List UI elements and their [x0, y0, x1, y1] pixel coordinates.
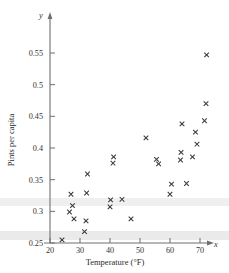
y-tick-label: 0.25 — [29, 239, 43, 248]
data-point-marker — [156, 162, 161, 167]
data-point-marker — [84, 191, 89, 196]
background-bands — [0, 198, 229, 240]
x-tick-label: 20 — [46, 246, 54, 255]
data-point-marker — [129, 217, 134, 222]
data-point-marker — [111, 155, 116, 160]
data-point-marker — [67, 210, 72, 215]
axes — [44, 12, 214, 245]
axis-ticks: 2030405060700.250.30.350.40.450.50.55 — [29, 49, 204, 255]
data-point-marker — [180, 122, 185, 127]
data-point-marker — [193, 130, 198, 135]
data-point-marker — [195, 142, 200, 147]
data-point-marker — [168, 192, 173, 197]
data-point-marker — [111, 161, 116, 166]
x-tick-label: 60 — [166, 246, 174, 255]
y-tick-label: 0.5 — [33, 81, 43, 90]
x-tick-label: 40 — [106, 246, 114, 255]
data-point-marker — [169, 182, 174, 187]
y-tick-label: 0.45 — [29, 112, 43, 121]
chart-canvas: 2030405060700.250.30.350.40.450.50.55 Te… — [0, 0, 229, 273]
data-point-marker — [184, 181, 189, 186]
y-axis-symbol: y — [38, 10, 43, 20]
y-tick-label: 0.35 — [29, 176, 43, 185]
x-axis-title: Temperature (°F) — [86, 257, 145, 267]
data-point-marker — [84, 219, 89, 224]
y-tick-label: 0.55 — [29, 49, 43, 58]
data-point-marker — [69, 192, 74, 197]
x-axis-symbol: x — [213, 239, 218, 249]
data-point-marker — [72, 217, 77, 222]
y-axis-title: Pints per capita — [6, 114, 16, 167]
data-point-marker — [85, 172, 90, 177]
data-point-marker — [204, 101, 209, 106]
y-tick-label: 0.3 — [33, 207, 43, 216]
data-point-marker — [202, 118, 207, 123]
data-point-marker — [179, 150, 184, 155]
x-tick-label: 30 — [76, 246, 84, 255]
x-tick-label: 70 — [196, 246, 204, 255]
y-tick-label: 0.4 — [33, 144, 43, 153]
data-point-marker — [204, 53, 209, 58]
data-points — [60, 53, 209, 243]
data-point-marker — [144, 136, 149, 141]
scatter-plot-figure: 2030405060700.250.30.350.40.450.50.55 Te… — [0, 0, 229, 273]
data-point-marker — [154, 157, 159, 162]
data-point-marker — [178, 158, 183, 163]
data-point-marker — [190, 155, 195, 160]
x-tick-label: 50 — [136, 246, 144, 255]
